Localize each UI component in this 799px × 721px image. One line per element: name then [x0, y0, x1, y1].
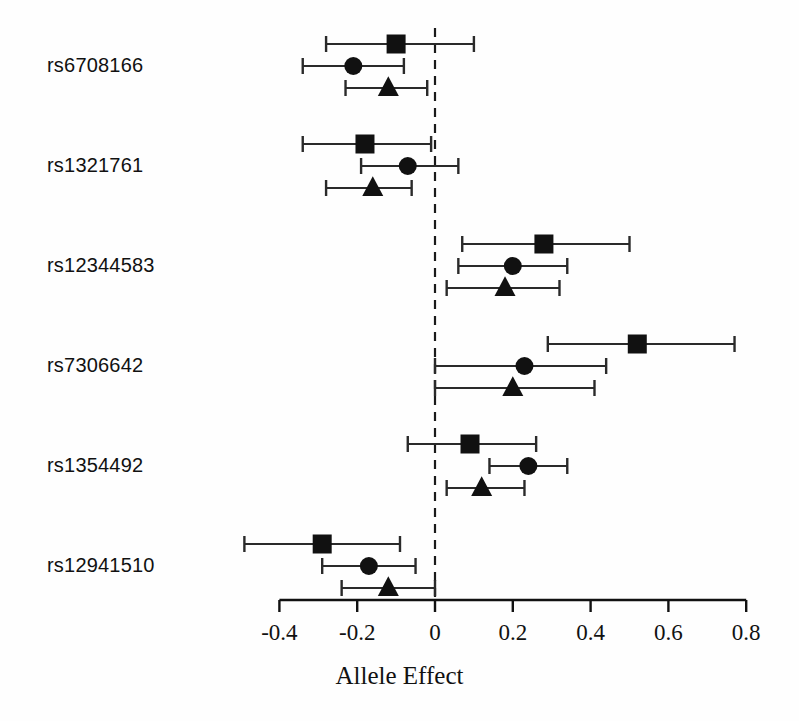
circle-marker	[504, 257, 522, 275]
x-axis-tick-label: 0.6	[654, 620, 683, 646]
forest-point-circle	[458, 257, 567, 275]
triangle-marker	[362, 176, 383, 196]
forest-point-triangle	[447, 276, 560, 296]
forest-point-square	[548, 335, 735, 354]
circle-marker	[360, 557, 378, 575]
snp-label-rs1354492: rs1354492	[47, 454, 143, 477]
x-axis-tick-label: 0.8	[732, 620, 761, 646]
forest-point-circle	[435, 357, 606, 375]
square-marker	[355, 135, 374, 154]
forest-point-triangle	[447, 476, 525, 496]
snp-label-rs7306642: rs7306642	[47, 354, 143, 377]
square-marker	[628, 335, 647, 354]
forest-point-square	[244, 535, 400, 554]
forest-point-square	[462, 235, 629, 254]
forest-point-square	[326, 35, 474, 54]
forest-point-triangle	[342, 576, 435, 596]
forest-row-group	[435, 335, 735, 397]
triangle-marker	[471, 476, 492, 496]
square-marker	[313, 535, 332, 554]
triangle-marker	[378, 576, 399, 596]
triangle-marker	[495, 276, 516, 296]
square-marker	[534, 235, 553, 254]
forest-point-triangle	[435, 376, 594, 396]
forest-point-square	[408, 435, 536, 454]
circle-marker	[344, 57, 362, 75]
forest-row-group	[303, 35, 474, 97]
x-axis-tick-label: -0.2	[339, 620, 375, 646]
circle-marker	[519, 457, 537, 475]
square-marker	[387, 35, 406, 54]
forest-row-group	[244, 535, 435, 597]
forest-plot: rs6708166rs1321761rs12344583rs7306642rs1…	[0, 0, 799, 721]
forest-point-triangle	[326, 176, 412, 196]
forest-point-square	[303, 135, 431, 154]
snp-label-rs12344583: rs12344583	[47, 254, 155, 277]
forest-row-group	[447, 235, 630, 297]
x-axis-tick-label: 0.2	[498, 620, 527, 646]
triangle-marker	[378, 76, 399, 96]
snp-label-rs6708166: rs6708166	[47, 54, 143, 77]
forest-row-group	[408, 435, 567, 497]
circle-marker	[399, 157, 417, 175]
snp-label-rs12941510: rs12941510	[47, 554, 155, 577]
triangle-marker	[502, 376, 523, 396]
x-axis-title: Allele Effect	[0, 662, 799, 690]
x-axis-tick-label: 0.4	[576, 620, 605, 646]
forest-point-circle	[322, 557, 415, 575]
x-axis-tick-label: 0	[429, 620, 441, 646]
forest-point-triangle	[346, 76, 428, 96]
x-axis-tick-label: -0.4	[261, 620, 297, 646]
forest-point-circle	[303, 57, 404, 75]
square-marker	[461, 435, 480, 454]
forest-point-circle	[361, 157, 458, 175]
snp-label-rs1321761: rs1321761	[47, 154, 143, 177]
circle-marker	[515, 357, 533, 375]
forest-point-circle	[489, 457, 567, 475]
